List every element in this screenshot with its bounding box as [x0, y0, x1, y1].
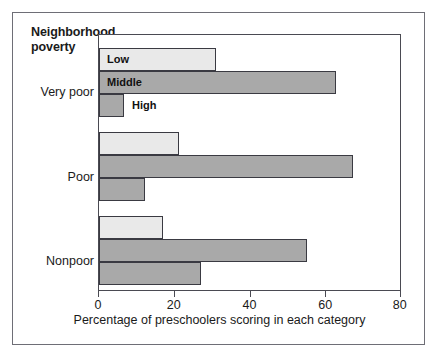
x-tick-label-0: 0 [95, 298, 102, 312]
bars-layer: Low Middle High [99, 35, 400, 290]
x-tick-label-40: 40 [243, 298, 257, 312]
x-tick-20 [174, 291, 175, 297]
y-axis-label-2: Nonpoor [46, 254, 94, 268]
bar-poor-middle [99, 155, 353, 178]
legend-label-high: High [132, 94, 156, 117]
x-tick-80 [400, 291, 401, 297]
x-axis-title: Percentage of preschoolers scoring in ea… [13, 313, 426, 327]
x-tick-label-20: 20 [167, 298, 181, 312]
x-tick-label-80: 80 [393, 298, 407, 312]
bar-poor-low [99, 132, 179, 155]
bar-poor-high [99, 178, 145, 201]
x-tick-label-60: 60 [318, 298, 332, 312]
y-axis-category-labels: Very poor Poor Nonpoor [13, 34, 94, 291]
plot-area: Low Middle High [98, 34, 401, 291]
bar-nonpoor-middle [99, 239, 307, 262]
x-tick-40 [250, 291, 251, 297]
bar-nonpoor-low [99, 216, 163, 239]
x-tick-0 [98, 291, 99, 297]
figure-panel: Neighborhood poverty Very poor Poor Nonp… [12, 12, 425, 345]
y-axis-label-0: Very poor [40, 85, 94, 99]
legend-label-low: Low [107, 48, 129, 71]
x-tick-60 [325, 291, 326, 297]
bar-very-poor-high [99, 94, 124, 117]
x-axis: 0 20 40 60 80 [98, 291, 401, 292]
y-axis-label-1: Poor [68, 170, 94, 184]
legend-label-middle: Middle [107, 71, 142, 94]
bar-nonpoor-high [99, 262, 201, 285]
